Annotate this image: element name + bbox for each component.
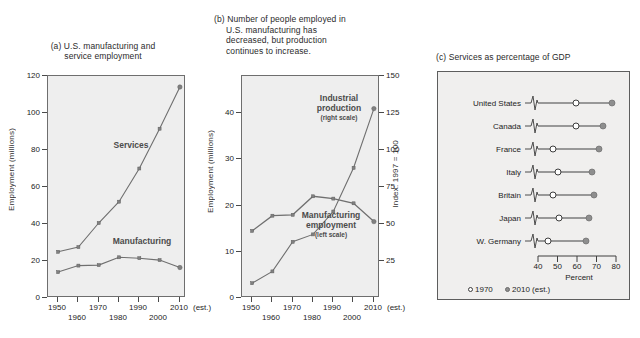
open-circle-icon (468, 287, 473, 292)
panel-b-title-line2: U.S. manufacturing has (226, 25, 416, 36)
panel-b-ytick-r-150 (379, 75, 384, 76)
panel-a-ytick-label-100: 100 (14, 108, 40, 117)
panel-b-label-manufacturing: Manufacturing employment (left scale) (286, 210, 376, 240)
panel-a-svg (48, 76, 186, 298)
panel-a-ytick-120 (42, 75, 47, 76)
panel-a-ytick-label-80: 80 (14, 145, 40, 154)
panel-c-legend-item-2010: 2010 (est.) (505, 285, 550, 294)
panel-b-label-industrial-l2: production (317, 103, 361, 113)
panel-a-plot-area: Services Manufacturing (47, 75, 185, 297)
panel-b-xtick-1950 (251, 297, 252, 302)
panel-b-ytick-l-30 (236, 158, 241, 159)
panel-b-label-manufacturing-l2: employment (306, 220, 356, 230)
panel-a: (a) U.S. manufacturing and service emplo… (0, 0, 205, 338)
panel-b-xtick-label-1970: 1970 (279, 303, 305, 312)
panel-c-axis-breaks (525, 96, 538, 248)
panel-a-xtick-label-1990: 1990 (125, 303, 151, 312)
filled-circle-icon (505, 287, 510, 292)
panel-b-xtick-label-1960: 1960 (258, 313, 284, 322)
panel-a-label-manufacturing: Manufacturing (100, 236, 184, 246)
panel-b-ytick-label-r-25: 25 (386, 256, 395, 265)
panel-b-ytick-l-10 (236, 251, 241, 252)
panel-a-title-line1: (a) U.S. manufacturing and (18, 41, 188, 52)
panel-a-ytick-40 (42, 223, 47, 224)
panel-b-xaxis-note: (est.) (387, 303, 405, 312)
panel-a-y-axis-label: Employment (millions) (7, 128, 16, 211)
panel-b-xtick-1990 (332, 297, 333, 302)
panel-a-xtick-1990 (138, 297, 139, 302)
panel-c-row-label-britain: Britain (435, 191, 521, 200)
panel-a-ytick-label-60: 60 (14, 182, 40, 191)
panel-b-label-industrial: Industrial production (right scale) (294, 93, 384, 123)
panel-a-label-services: Services (96, 140, 166, 150)
panel-a-xtick-label-2010: 2010 (166, 303, 192, 312)
panel-b-ytick-label-l-20: 20 (210, 201, 234, 210)
panel-b-ytick-l-20 (236, 205, 241, 206)
panel-a-xtick-label-2000: 2000 (145, 313, 171, 322)
panel-b-xtick-label-2010: 2010 (360, 303, 386, 312)
panel-c-title: (c) Services as percentage of GDP (436, 52, 636, 63)
panel-a-xtick-label-1980: 1980 (105, 313, 131, 322)
panel-c-legend-label-2010: 2010 (est.) (512, 285, 550, 294)
panel-a-ytick-label-0: 0 (14, 293, 40, 302)
panel-b-xtick-2010 (373, 297, 374, 302)
panel-b-ytick-r-50 (379, 223, 384, 224)
panel-c: (c) Services as percentage of GDP United… (420, 0, 640, 338)
panel-a-xtick-label-1950: 1950 (44, 303, 70, 312)
panel-a-ytick-label-40: 40 (14, 219, 40, 228)
panel-b-xtick-label-1950: 1950 (238, 303, 264, 312)
panel-b-xtick-1980 (312, 297, 313, 302)
panel-b-xtick-1970 (292, 297, 293, 302)
panel-a-series-manufacturing-line (58, 257, 180, 272)
panel-b-label-industrial-sub: (right scale) (294, 113, 384, 123)
panel-b-ytick-r-75 (379, 186, 384, 187)
panel-a-ytick-100 (42, 112, 47, 113)
panel-a-ytick-20 (42, 260, 47, 261)
panel-c-plot-area: United States Canada France Italy Britai… (437, 71, 630, 300)
panel-b-xtick-label-1980: 1980 (299, 313, 325, 322)
panel-b-ytick-label-l-40: 40 (210, 108, 234, 117)
panel-b-ytick-l-40 (236, 112, 241, 113)
panel-b-ytick-r-125 (379, 112, 384, 113)
panel-b-label-manufacturing-l1: Manufacturing (302, 210, 361, 220)
panel-c-row-label-w-germany: W. Germany (435, 237, 521, 246)
panel-b-ytick-r-25 (379, 260, 384, 261)
panel-b-xtick-label-2000: 2000 (339, 313, 365, 322)
panel-b-title-line1: (b) Number of people employed in (214, 14, 414, 25)
panel-b-title-line4: continues to increase. (226, 46, 416, 57)
panel-b-xtick-1960 (271, 297, 272, 302)
panel-c-row-label-united-states: United States (435, 99, 521, 108)
panel-b-plot-area: Industrial production (right scale) Manu… (241, 75, 379, 297)
panel-b-ytick-label-l-0: 0 (210, 293, 234, 302)
panel-b-title-line3: decreased, but production (226, 35, 416, 46)
panel-a-ytick-label-20: 20 (14, 256, 40, 265)
panel-c-row-label-canada: Canada (435, 122, 521, 131)
panel-b-ytick-label-l-30: 30 (210, 154, 234, 163)
panel-a-xtick-2000 (158, 297, 159, 302)
panel-c-row-label-japan: Japan (435, 214, 521, 223)
panel-a-xtick-1980 (118, 297, 119, 302)
panel-a-xtick-label-1970: 1970 (85, 303, 111, 312)
panel-b-ytick-r-100 (379, 149, 384, 150)
panel-a-xtick-label-1960: 1960 (64, 313, 90, 322)
panel-c-legend-label-1970: 1970 (475, 285, 493, 294)
panel-a-ytick-label-120: 120 (14, 71, 40, 80)
panel-c-legend-item-1970: 1970 (468, 285, 493, 294)
panel-a-xtick-1970 (98, 297, 99, 302)
panel-c-x-axis-label: Percent (544, 273, 614, 282)
panel-b-ytick-label-r-75: 75 (386, 182, 395, 191)
panel-a-ytick-0 (42, 297, 47, 298)
panel-b-xtick-2000 (352, 297, 353, 302)
panel-b-label-manufacturing-sub: (left scale) (286, 230, 376, 240)
panel-a-series-services-line (58, 87, 180, 252)
panel-a-ytick-80 (42, 149, 47, 150)
panel-a-xtick-2010 (179, 297, 180, 302)
panel-a-ytick-60 (42, 186, 47, 187)
panel-a-xtick-1960 (77, 297, 78, 302)
panel-c-legend: 1970 2010 (est.) (468, 285, 560, 294)
panel-b-xtick-label-1990: 1990 (319, 303, 345, 312)
panel-b: (b) Number of people employed in U.S. ma… (205, 0, 420, 338)
panel-b-ytick-label-r-100: 100 (386, 145, 399, 154)
figure-container: (a) U.S. manufacturing and service emplo… (0, 0, 640, 338)
panel-a-series-manufacturing-markers (57, 256, 182, 274)
